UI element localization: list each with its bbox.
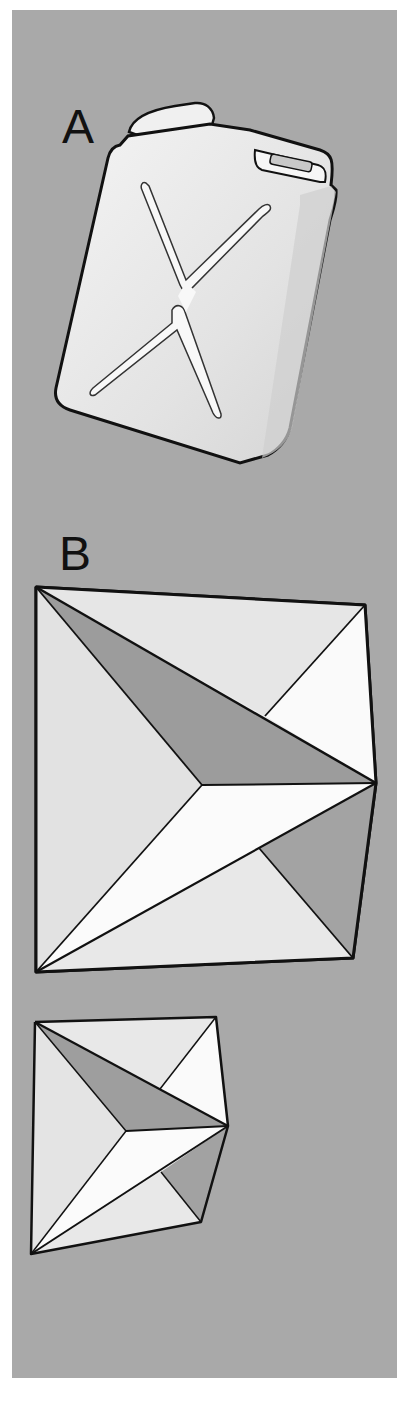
polyhedron-small xyxy=(31,1017,228,1254)
polyhedron-large xyxy=(36,587,376,972)
jerrycan-icon xyxy=(56,103,337,463)
figure-artwork xyxy=(0,0,416,1413)
